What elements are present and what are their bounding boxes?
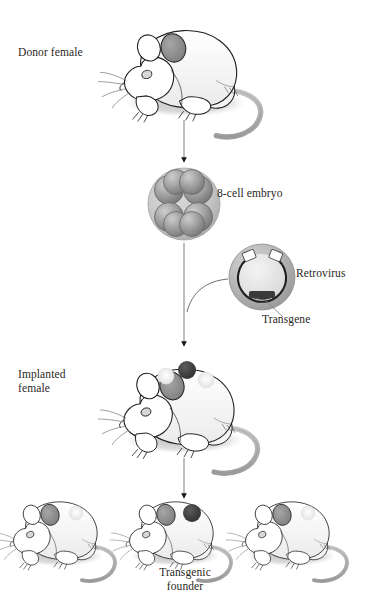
diagram-canvas: Donor female 8-cell embryo Retrovirus Tr… (0, 0, 369, 608)
offspring-mouse-3 (226, 502, 347, 581)
label-retrovirus: Retrovirus (296, 267, 346, 281)
coat-spot-light (69, 506, 83, 520)
coat-spot-light (301, 506, 315, 520)
implanted-female-illustration (98, 361, 258, 473)
coat-spot-light-2 (198, 372, 214, 388)
coat-spot-dark (183, 504, 201, 522)
arrow-retrovirus-to-flow (187, 279, 228, 312)
coat-spot-dark (178, 361, 196, 379)
label-transgene: Transgene (262, 313, 310, 327)
label-donor-female: Donor female (18, 46, 83, 60)
embryo-illustration (148, 168, 220, 240)
offspring-mouse-1 (0, 502, 115, 581)
transgenic-mouse-diagram (0, 0, 369, 608)
label-implanted-female: Implanted female (18, 368, 66, 395)
label-8-cell-embryo: 8-cell embryo (217, 187, 282, 201)
donor-female-illustration (98, 31, 261, 137)
retrovirus-illustration (229, 244, 295, 317)
coat-spot-light-1 (158, 368, 174, 384)
label-transgenic-founder: Transgenic founder (133, 566, 237, 593)
